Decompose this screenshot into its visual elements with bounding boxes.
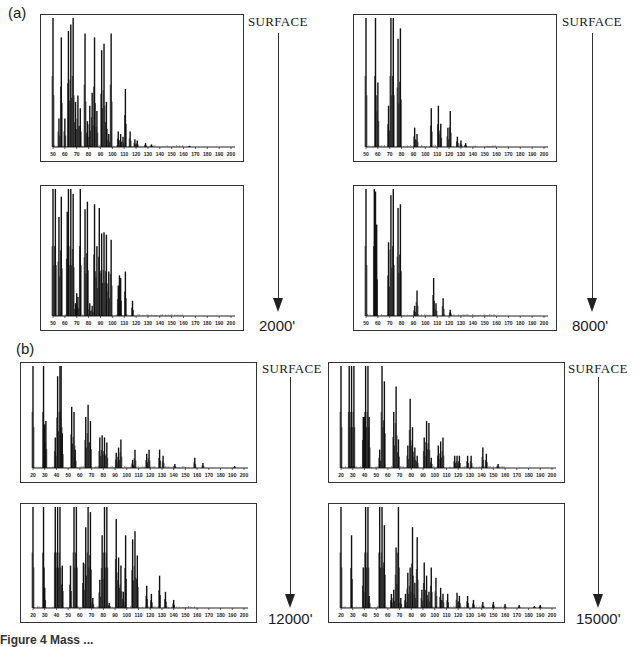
svg-text:170: 170 — [205, 472, 214, 478]
svg-text:30: 30 — [42, 472, 48, 478]
depth-arrow-b-left — [290, 377, 291, 597]
svg-text:90: 90 — [411, 151, 417, 157]
svg-text:30: 30 — [350, 472, 356, 478]
svg-text:20: 20 — [338, 612, 344, 618]
svg-text:110: 110 — [120, 151, 128, 157]
svg-text:50: 50 — [363, 320, 369, 326]
svg-text:150: 150 — [181, 472, 190, 478]
svg-text:170: 170 — [504, 320, 513, 326]
svg-text:110: 110 — [442, 612, 450, 618]
svg-text:180: 180 — [516, 151, 525, 157]
svg-text:70: 70 — [387, 320, 393, 326]
svg-text:50: 50 — [65, 612, 71, 618]
svg-text:170: 170 — [191, 320, 200, 326]
svg-text:120: 120 — [132, 151, 141, 157]
svg-text:160: 160 — [492, 151, 501, 157]
svg-text:200: 200 — [548, 612, 557, 618]
svg-text:50: 50 — [363, 151, 369, 157]
arrow-head-icon — [593, 594, 603, 608]
svg-text:180: 180 — [524, 472, 533, 478]
svg-text:190: 190 — [528, 151, 537, 157]
svg-text:100: 100 — [431, 612, 440, 618]
surface-label-b-right: SURFACE — [568, 361, 628, 377]
svg-text:140: 140 — [156, 320, 165, 326]
svg-text:60: 60 — [77, 472, 83, 478]
svg-text:190: 190 — [215, 320, 224, 326]
svg-text:150: 150 — [480, 151, 489, 157]
svg-text:120: 120 — [445, 151, 454, 157]
svg-text:200: 200 — [240, 612, 249, 618]
spectrum-a-surface-right: 5060708090100110120130140150160170180190… — [353, 14, 557, 162]
svg-text:130: 130 — [158, 472, 167, 478]
svg-text:110: 110 — [433, 320, 441, 326]
svg-text:190: 190 — [528, 320, 537, 326]
surface-label-a-right: SURFACE — [562, 14, 622, 30]
svg-text:170: 170 — [513, 612, 522, 618]
svg-text:120: 120 — [132, 320, 141, 326]
svg-text:130: 130 — [158, 612, 167, 618]
svg-text:70: 70 — [397, 612, 403, 618]
svg-text:140: 140 — [477, 472, 486, 478]
svg-text:80: 80 — [409, 612, 415, 618]
svg-text:130: 130 — [144, 320, 153, 326]
svg-text:90: 90 — [112, 472, 118, 478]
svg-text:40: 40 — [54, 472, 60, 478]
svg-text:180: 180 — [203, 151, 212, 157]
svg-text:80: 80 — [86, 151, 92, 157]
svg-text:190: 190 — [536, 472, 545, 478]
svg-text:70: 70 — [89, 612, 95, 618]
spectrum-a-2000ft: 5060708090100110120130140150160170180190… — [40, 185, 244, 331]
depth-label-2000: 2000' — [259, 317, 295, 334]
svg-text:200: 200 — [548, 472, 557, 478]
svg-text:140: 140 — [169, 612, 178, 618]
svg-text:120: 120 — [146, 612, 155, 618]
svg-text:80: 80 — [86, 320, 92, 326]
svg-text:190: 190 — [536, 612, 545, 618]
svg-text:110: 110 — [134, 472, 142, 478]
svg-text:180: 180 — [516, 320, 525, 326]
svg-text:40: 40 — [362, 472, 368, 478]
svg-text:100: 100 — [431, 472, 440, 478]
svg-text:140: 140 — [169, 472, 178, 478]
svg-text:140: 140 — [156, 151, 165, 157]
svg-text:200: 200 — [540, 320, 549, 326]
svg-text:50: 50 — [373, 612, 379, 618]
svg-text:150: 150 — [489, 472, 498, 478]
svg-text:140: 140 — [477, 612, 486, 618]
svg-text:60: 60 — [375, 320, 381, 326]
svg-text:150: 150 — [489, 612, 498, 618]
panel-label-b: (b) — [16, 340, 34, 357]
svg-text:140: 140 — [469, 320, 478, 326]
svg-text:20: 20 — [30, 472, 36, 478]
svg-text:100: 100 — [421, 151, 430, 157]
depth-label-12000: 12000' — [268, 610, 313, 627]
svg-text:60: 60 — [62, 151, 68, 157]
svg-text:60: 60 — [77, 612, 83, 618]
panel-label-a: (a) — [8, 4, 26, 21]
svg-text:90: 90 — [98, 151, 104, 157]
svg-text:130: 130 — [466, 612, 475, 618]
svg-text:120: 120 — [146, 472, 155, 478]
svg-text:120: 120 — [454, 612, 463, 618]
svg-text:160: 160 — [179, 320, 188, 326]
svg-text:200: 200 — [540, 151, 549, 157]
svg-text:190: 190 — [228, 472, 237, 478]
svg-text:70: 70 — [89, 472, 95, 478]
svg-text:130: 130 — [457, 151, 466, 157]
svg-text:50: 50 — [65, 472, 71, 478]
svg-text:160: 160 — [179, 151, 188, 157]
svg-text:160: 160 — [492, 320, 501, 326]
svg-text:90: 90 — [98, 320, 104, 326]
svg-text:120: 120 — [445, 320, 454, 326]
svg-text:60: 60 — [385, 472, 391, 478]
svg-text:110: 110 — [134, 612, 142, 618]
svg-text:70: 70 — [397, 472, 403, 478]
depth-label-15000: 15000' — [576, 610, 621, 627]
svg-text:150: 150 — [167, 151, 176, 157]
svg-text:40: 40 — [362, 612, 368, 618]
svg-text:90: 90 — [420, 472, 426, 478]
svg-text:140: 140 — [469, 151, 478, 157]
spectrum-b-12000ft: 2030405060708090100110120130140150160170… — [20, 503, 257, 623]
svg-text:160: 160 — [193, 472, 202, 478]
svg-text:80: 80 — [101, 472, 107, 478]
